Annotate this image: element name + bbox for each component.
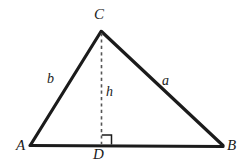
vertex-label-c: C — [94, 7, 104, 22]
triangle-altitude-figure: A B C D b a h — [0, 0, 240, 168]
vertex-label-b: B — [227, 138, 236, 153]
vertex-label-a: A — [16, 138, 25, 153]
side-label-a: a — [162, 74, 169, 88]
side-label-b: b — [47, 72, 54, 86]
triangle-side-cb — [102, 32, 224, 146]
right-angle-marker-icon — [102, 135, 112, 145]
vertex-label-d: D — [93, 147, 104, 162]
triangle-diagram-canvas — [0, 0, 240, 168]
altitude-label-h: h — [106, 85, 113, 99]
triangle-side-ab — [30, 146, 223, 147]
triangle-side-ac — [31, 32, 102, 146]
